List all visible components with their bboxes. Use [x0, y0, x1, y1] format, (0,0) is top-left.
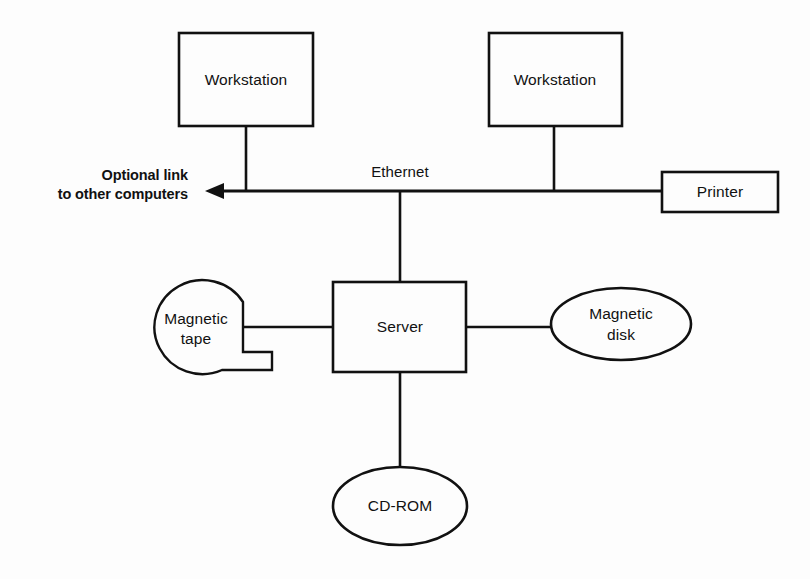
- node-workstation-right[interactable]: Workstation: [489, 33, 622, 126]
- ethernet-bus-label: Ethernet: [371, 163, 429, 180]
- printer-label: Printer: [697, 183, 743, 200]
- ethernet-bus-group: Ethernet: [205, 163, 662, 199]
- network-diagram-canvas: Ethernet Workstation Workstation Printer…: [0, 0, 810, 579]
- node-server[interactable]: Server: [333, 282, 466, 372]
- workstation-right-label: Workstation: [514, 71, 597, 88]
- network-topology-diagram: Ethernet Workstation Workstation Printer…: [0, 0, 810, 579]
- magnetic-disk-label-line1: Magnetic: [589, 305, 653, 322]
- node-workstation-left[interactable]: Workstation: [179, 33, 313, 126]
- left-arrow-icon: [205, 183, 224, 199]
- magnetic-tape-label-line2: tape: [181, 330, 212, 347]
- magnetic-tape-label-line1: Magnetic: [164, 310, 228, 327]
- optional-link-annotation: Optional link to other computers: [58, 167, 189, 202]
- node-printer[interactable]: Printer: [662, 172, 778, 212]
- node-magnetic-disk[interactable]: Magnetic disk: [551, 288, 691, 360]
- node-cdrom[interactable]: CD-ROM: [333, 467, 467, 545]
- optional-link-text-line1: Optional link: [101, 167, 189, 183]
- cdrom-label: CD-ROM: [368, 497, 432, 514]
- optional-link-text-line2: to other computers: [58, 186, 188, 202]
- server-label: Server: [377, 318, 423, 335]
- magnetic-disk-ellipse: [551, 288, 691, 360]
- magnetic-disk-label-line2: disk: [607, 326, 635, 343]
- workstation-left-label: Workstation: [205, 71, 288, 88]
